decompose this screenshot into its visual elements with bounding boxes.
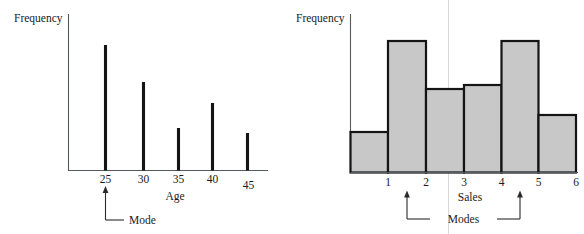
left-x-axis-label: Age	[165, 190, 184, 203]
right-tick-6: 6	[573, 176, 579, 188]
right-x-axis-label: Sales	[458, 191, 483, 203]
right-histogram-bars	[351, 41, 577, 173]
left-chart: Frequency 25 30 35 40 45 Age	[14, 12, 268, 226]
right-tick-5: 5	[536, 176, 542, 188]
hist-bar-5-6	[539, 115, 577, 173]
right-y-axis-label: Frequency	[296, 12, 345, 25]
hist-bar-2-3	[426, 89, 464, 173]
left-tick-30: 30	[138, 173, 150, 185]
right-tick-3: 3	[461, 176, 467, 188]
left-tick-45: 45	[243, 179, 255, 191]
right-tick-4: 4	[499, 176, 505, 188]
statistics-mode-figure: Frequency 25 30 35 40 45 Age	[0, 0, 584, 234]
modes-left-arrow-head	[404, 191, 410, 198]
left-y-axis-label: Frequency	[14, 12, 63, 25]
right-tick-1: 1	[385, 176, 391, 188]
mode-arrow-head	[103, 186, 109, 193]
right-chart: Frequency 1 2 3 4 5 6 Sales	[296, 0, 579, 234]
left-spikes	[106, 45, 248, 171]
hist-bar-4-5	[502, 41, 539, 173]
hist-bar-3-4	[464, 85, 502, 173]
figure-canvas: Frequency 25 30 35 40 45 Age	[0, 0, 584, 234]
left-tick-35: 35	[173, 173, 185, 185]
hist-bar-1-2	[388, 41, 426, 173]
mode-annotation-label: Mode	[129, 214, 156, 226]
modes-annotation-label: Modes	[448, 213, 480, 225]
hist-bar-0-1	[351, 132, 389, 173]
left-tick-25: 25	[100, 173, 112, 185]
left-axes	[69, 14, 269, 171]
right-tick-labels: 1 2 3 4 5 6	[385, 176, 579, 188]
modes-right-arrow-head	[517, 191, 523, 198]
left-mode-annotation: Mode	[103, 186, 156, 226]
left-tick-40: 40	[207, 173, 219, 185]
left-tick-labels: 25 30 35 40 45	[100, 173, 255, 191]
right-tick-2: 2	[423, 176, 429, 188]
